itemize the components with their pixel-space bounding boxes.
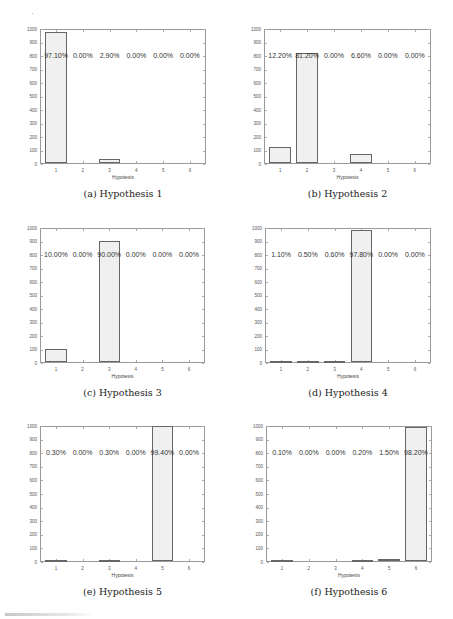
y-tick-mark xyxy=(428,296,430,297)
percent-label: 0.20% xyxy=(348,449,376,457)
x-tick-mark xyxy=(307,30,308,32)
y-tick-label: 400 xyxy=(21,108,37,113)
y-tick-mark xyxy=(429,521,431,522)
y-tick-label: 1000 xyxy=(247,424,263,429)
x-tick-mark xyxy=(280,30,281,32)
y-tick-mark xyxy=(266,282,268,283)
y-tick-mark xyxy=(41,336,43,337)
x-tick-mark xyxy=(388,360,389,362)
y-tick-mark xyxy=(41,467,43,468)
x-tick-mark xyxy=(389,427,390,429)
percent-label: 0.00% xyxy=(374,251,402,259)
y-tick-mark xyxy=(265,151,267,152)
y-tick-label: 0 xyxy=(245,162,261,167)
x-tick-mark xyxy=(336,427,337,429)
y-tick-mark xyxy=(203,29,205,30)
y-tick-mark xyxy=(265,124,267,125)
y-tick-mark xyxy=(428,43,430,44)
figure-footer-partial xyxy=(5,613,95,616)
y-tick-label: 100 xyxy=(247,546,263,551)
y-tick-mark xyxy=(428,97,430,98)
x-axis-label: Hypotesis xyxy=(266,572,432,578)
x-tick-label: 5 xyxy=(383,367,393,372)
y-tick-label: 800 xyxy=(21,451,37,456)
y-tick-mark xyxy=(265,137,267,138)
y-tick-label: 300 xyxy=(246,320,262,325)
bar-hypothesis-2 xyxy=(296,53,318,163)
y-tick-mark xyxy=(265,110,267,111)
y-tick-mark xyxy=(429,535,431,536)
y-tick-mark xyxy=(202,296,204,297)
x-tick-mark xyxy=(136,360,137,362)
y-tick-label: 400 xyxy=(21,307,37,312)
x-tick-mark xyxy=(388,161,389,163)
x-tick-label: 2 xyxy=(304,566,314,571)
y-tick-label: 200 xyxy=(21,532,37,537)
y-tick-mark xyxy=(266,269,268,270)
x-tick-label: 5 xyxy=(384,566,394,571)
y-tick-mark xyxy=(265,97,267,98)
y-tick-mark xyxy=(428,323,430,324)
y-tick-label: 500 xyxy=(246,293,262,298)
y-tick-mark xyxy=(429,467,431,468)
x-axis-label: Hypotesis xyxy=(265,373,431,379)
x-tick-mark xyxy=(190,30,191,32)
x-tick-label: 4 xyxy=(131,168,141,173)
y-tick-mark xyxy=(41,124,43,125)
y-tick-label: 600 xyxy=(246,280,262,285)
figure-caption: (c) Hypothesis 3 xyxy=(20,387,225,398)
y-tick-mark xyxy=(202,480,204,481)
percent-label: 97.80% xyxy=(347,251,375,259)
figure-caption: (f) Hypothesis 6 xyxy=(246,586,452,597)
y-tick-label: 700 xyxy=(246,266,262,271)
y-tick-label: 900 xyxy=(246,239,262,244)
y-tick-mark xyxy=(202,336,204,337)
y-tick-mark xyxy=(203,83,205,84)
y-tick-mark xyxy=(41,29,43,30)
x-tick-mark xyxy=(334,161,335,163)
y-tick-mark xyxy=(429,440,431,441)
x-tick-label: 5 xyxy=(158,168,168,173)
x-tick-mark xyxy=(361,30,362,32)
y-tick-mark xyxy=(428,350,430,351)
x-tick-label: 6 xyxy=(185,168,195,173)
y-tick-mark xyxy=(41,269,43,270)
y-tick-mark xyxy=(41,164,43,165)
x-tick-mark xyxy=(136,30,137,32)
y-tick-mark xyxy=(202,242,204,243)
y-tick-label: 200 xyxy=(245,135,261,140)
percent-label: 0.00% xyxy=(322,449,350,457)
y-tick-label: 600 xyxy=(245,81,261,86)
x-tick-label: 2 xyxy=(302,168,312,173)
percent-label: 12.20% xyxy=(266,52,294,60)
y-tick-label: 1000 xyxy=(245,27,261,32)
y-tick-mark xyxy=(265,83,267,84)
y-tick-label: 600 xyxy=(247,478,263,483)
bar-hypothesis-4 xyxy=(350,154,372,163)
y-tick-label: 200 xyxy=(246,334,262,339)
y-tick-mark xyxy=(266,309,268,310)
y-tick-label: 500 xyxy=(247,492,263,497)
y-tick-label: 700 xyxy=(21,266,37,271)
stray-mark xyxy=(32,13,33,14)
y-tick-mark xyxy=(41,110,43,111)
y-tick-mark xyxy=(267,508,269,509)
y-tick-label: 500 xyxy=(21,492,37,497)
y-tick-mark xyxy=(428,164,430,165)
y-tick-label: 700 xyxy=(247,464,263,469)
bar-hypothesis-4 xyxy=(352,560,373,562)
x-tick-mark xyxy=(83,161,84,163)
y-tick-mark xyxy=(41,440,43,441)
y-tick-mark xyxy=(41,83,43,84)
bar-hypothesis-3 xyxy=(324,361,345,363)
x-tick-mark xyxy=(309,559,310,561)
y-tick-mark xyxy=(203,124,205,125)
y-tick-label: 900 xyxy=(247,437,263,442)
y-tick-label: 100 xyxy=(21,148,37,153)
x-tick-mark xyxy=(309,427,310,429)
y-tick-mark xyxy=(41,137,43,138)
y-tick-label: 1000 xyxy=(246,226,262,231)
percent-label: 0.30% xyxy=(42,449,70,457)
plot-area xyxy=(264,29,431,164)
x-axis-label: Hypotesis xyxy=(264,174,431,180)
